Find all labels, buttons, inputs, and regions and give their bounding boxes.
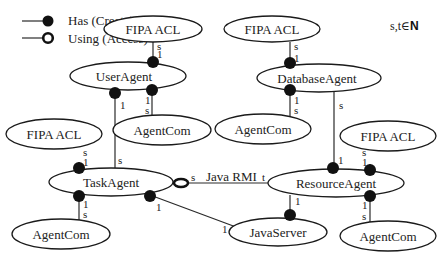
svg-text:FIPA ACL: FIPA ACL bbox=[245, 22, 300, 37]
svg-text:AgentCom: AgentCom bbox=[133, 123, 190, 138]
node-java-server: JavaServer bbox=[229, 218, 327, 246]
node-agentcom-resource: AgentCom bbox=[340, 221, 436, 251]
svg-text:AgentCom: AgentCom bbox=[32, 227, 89, 242]
using-ring-icon bbox=[174, 179, 188, 187]
node-fipa-mid-right: FIPA ACL bbox=[340, 121, 436, 151]
svg-text:s: s bbox=[191, 171, 195, 183]
svg-text:1: 1 bbox=[338, 154, 344, 166]
svg-text:FIPA ACL: FIPA ACL bbox=[27, 127, 82, 142]
svg-text:1: 1 bbox=[295, 195, 301, 207]
node-agentcom-db: AgentCom bbox=[215, 114, 311, 144]
svg-text:1: 1 bbox=[157, 48, 163, 60]
svg-text:DatabaseAgent: DatabaseAgent bbox=[277, 71, 357, 86]
svg-text:s: s bbox=[118, 154, 122, 166]
svg-text:1: 1 bbox=[294, 52, 300, 64]
has-dot-icon bbox=[144, 190, 156, 202]
svg-text:s: s bbox=[339, 99, 343, 111]
has-dot-icon bbox=[284, 209, 296, 221]
svg-text:s: s bbox=[83, 208, 87, 220]
svg-text:1: 1 bbox=[156, 201, 162, 213]
node-fipa-top-right: FIPA ACL bbox=[224, 16, 320, 42]
svg-text:TaskAgent: TaskAgent bbox=[83, 175, 140, 190]
svg-text:ResourceAgent: ResourceAgent bbox=[296, 176, 377, 191]
node-fipa-top-left: FIPA ACL bbox=[104, 16, 202, 42]
svg-text:s: s bbox=[294, 104, 298, 116]
svg-text:AgentCom: AgentCom bbox=[359, 229, 416, 244]
node-database-agent: DatabaseAgent bbox=[257, 64, 381, 92]
svg-text:1: 1 bbox=[222, 223, 228, 235]
java-rmi-label: Java RMI bbox=[206, 169, 257, 184]
svg-text:JavaServer: JavaServer bbox=[249, 225, 307, 240]
svg-text:s: s bbox=[294, 40, 298, 52]
svg-text:s: s bbox=[362, 210, 366, 222]
node-task-agent: TaskAgent bbox=[49, 168, 173, 196]
svg-text:UserAgent: UserAgent bbox=[96, 69, 153, 84]
has-dot-icon bbox=[109, 87, 121, 99]
node-agentcom-task: AgentCom bbox=[12, 219, 110, 249]
has-dot-icon bbox=[43, 16, 54, 27]
node-fipa-mid-left: FIPA ACL bbox=[6, 119, 102, 149]
svg-text:FIPA ACL: FIPA ACL bbox=[126, 22, 181, 37]
svg-text:1: 1 bbox=[120, 99, 126, 111]
svg-text:AgentCom: AgentCom bbox=[234, 122, 291, 137]
node-resource-agent: ResourceAgent bbox=[268, 169, 404, 197]
set-note: s,t∈N bbox=[390, 19, 419, 33]
svg-text:t: t bbox=[262, 171, 265, 183]
using-ring-icon bbox=[43, 33, 53, 43]
node-user-agent: UserAgent bbox=[70, 62, 186, 90]
agent-diagram: Has (Create) Using (Access) s,t∈N bbox=[0, 0, 446, 262]
svg-text:1: 1 bbox=[362, 156, 368, 168]
svg-text:FIPA ACL: FIPA ACL bbox=[361, 129, 416, 144]
svg-text:1: 1 bbox=[83, 156, 89, 168]
node-agentcom-user: AgentCom bbox=[113, 115, 211, 145]
svg-text:s: s bbox=[145, 104, 149, 116]
